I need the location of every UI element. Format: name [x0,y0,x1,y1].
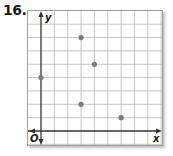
x-axis-label: x [152,133,160,144]
coordinate-plane: y x O [0,0,173,156]
data-point [78,102,83,107]
origin-label: O [30,133,39,144]
data-point [38,75,43,80]
data-point [119,115,124,120]
y-axis-label: y [45,12,52,23]
data-point [78,35,83,40]
data-point [92,62,97,67]
